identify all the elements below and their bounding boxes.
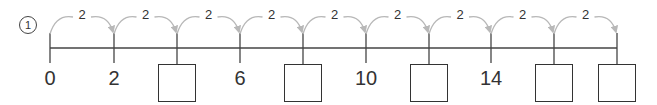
jump-arrow	[532, 17, 554, 32]
jump-label: 2	[205, 7, 212, 22]
jump-arrow	[155, 17, 177, 32]
jump-arrow	[91, 17, 113, 32]
jump-label: 2	[582, 7, 589, 22]
jump-arc	[491, 17, 514, 34]
jump-label: 2	[456, 7, 463, 22]
jump-arc	[114, 17, 137, 34]
answer-box[interactable]	[158, 64, 196, 102]
jump-arrow	[218, 17, 240, 32]
jump-arc	[240, 17, 263, 34]
jump-arrow	[344, 17, 366, 32]
jump-arc	[366, 17, 389, 34]
tick-label: 0	[44, 67, 55, 90]
jump-arrow	[469, 17, 490, 32]
jump-arc	[429, 17, 451, 34]
jump-label: 2	[78, 7, 85, 22]
jump-label: 2	[142, 7, 149, 22]
jump-arc	[303, 17, 326, 34]
answer-box[interactable]	[284, 64, 322, 102]
answer-box[interactable]	[598, 64, 636, 102]
jump-arc	[177, 17, 200, 34]
jump-label: 2	[331, 7, 338, 22]
jump-label: 2	[519, 7, 526, 22]
tick-label: 14	[480, 67, 502, 90]
tick-label: 2	[108, 67, 119, 90]
jump-arrow	[281, 17, 303, 32]
answer-box[interactable]	[410, 64, 448, 102]
jump-arc	[50, 17, 73, 34]
jump-arc	[554, 17, 577, 34]
number-line-diagram: 1 0222262210221422	[0, 0, 657, 105]
answer-box[interactable]	[535, 64, 573, 102]
jump-label: 2	[268, 7, 275, 22]
jump-arrow	[595, 17, 617, 32]
jump-arrow	[407, 17, 429, 32]
tick-label: 6	[234, 67, 245, 90]
tick-label: 10	[355, 67, 377, 90]
jump-label: 2	[394, 7, 401, 22]
